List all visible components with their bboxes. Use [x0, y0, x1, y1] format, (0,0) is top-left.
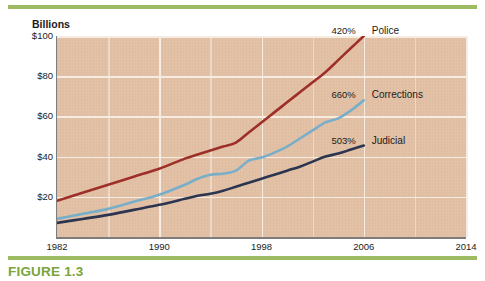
x-axis-line	[56, 237, 466, 239]
series-name-corrections: Corrections	[372, 89, 423, 100]
x-axis-tick-label: 2014	[455, 241, 476, 252]
plot-area: 420%Police660%Corrections503%Judicial	[57, 36, 466, 237]
y-axis-tick-label: $20	[37, 191, 53, 202]
series-name-police: Police	[372, 25, 399, 36]
y-axis-tick-label: $60	[37, 110, 53, 121]
top-divider-rule	[8, 5, 477, 9]
x-axis-tick-labels: 19821990199820062014	[0, 241, 485, 255]
x-axis-tick-label: 2006	[353, 241, 374, 252]
series-name-judicial: Judicial	[372, 134, 405, 145]
y-axis-tick-labels: $20$40$60$80$100	[0, 0, 53, 281]
figure-container: Billions $20$40$60$80$100 420%Police660%…	[0, 0, 485, 281]
growth-label-corrections: 660%	[331, 89, 355, 100]
y-axis-tick-label: $80	[37, 70, 53, 81]
y-axis-tick-label: $100	[32, 30, 53, 41]
growth-label-police: 420%	[331, 25, 355, 36]
y-axis-tick-label: $40	[37, 151, 53, 162]
x-axis-tick-label: 1990	[149, 241, 170, 252]
x-axis-tick-label: 1982	[46, 241, 67, 252]
series-line-judicial	[57, 146, 364, 223]
figure-caption: FIGURE 1.3	[8, 264, 84, 279]
series-line-police	[57, 36, 364, 201]
x-axis-tick-label: 1998	[251, 241, 272, 252]
gridline-vertical	[466, 36, 468, 237]
growth-label-judicial: 503%	[331, 134, 355, 145]
bottom-divider-rule	[8, 256, 477, 260]
